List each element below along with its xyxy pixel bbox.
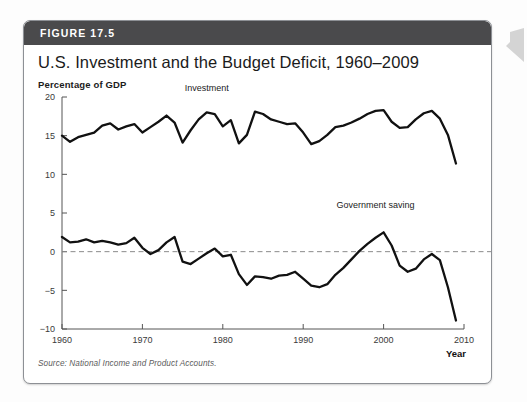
y-tick-label: 0 — [50, 247, 55, 257]
x-tick-label: 1980 — [213, 335, 233, 345]
y-tick-label: 5 — [50, 208, 55, 218]
x-tick-label: 2010 — [454, 335, 474, 345]
x-tick-label: 1970 — [132, 335, 152, 345]
page-background: FIGURE 17.5 U.S. Investment and the Budg… — [0, 0, 527, 402]
y-tick-label: 20 — [45, 92, 55, 102]
x-tick-label: 1990 — [293, 335, 313, 345]
x-tick-label: 2000 — [374, 335, 394, 345]
y-tick-label: 15 — [45, 131, 55, 141]
line-chart: −10−505101520196019701980199020002010Yea… — [24, 21, 492, 384]
series-line-investment — [62, 110, 456, 163]
figure-card: FIGURE 17.5 U.S. Investment and the Budg… — [23, 20, 492, 384]
source-note: Source: National Income and Product Acco… — [38, 359, 217, 368]
series-annotation: Government saving — [337, 200, 415, 210]
y-tick-label: 10 — [45, 170, 55, 180]
chevron-left-icon — [502, 27, 527, 63]
x-tick-label: 1960 — [52, 335, 72, 345]
y-tick-label: −10 — [40, 324, 55, 334]
y-tick-label: −5 — [45, 286, 55, 296]
series-annotation: Investment — [185, 83, 230, 93]
x-axis-title: Year — [446, 348, 466, 359]
series-line-government-saving — [62, 232, 456, 320]
